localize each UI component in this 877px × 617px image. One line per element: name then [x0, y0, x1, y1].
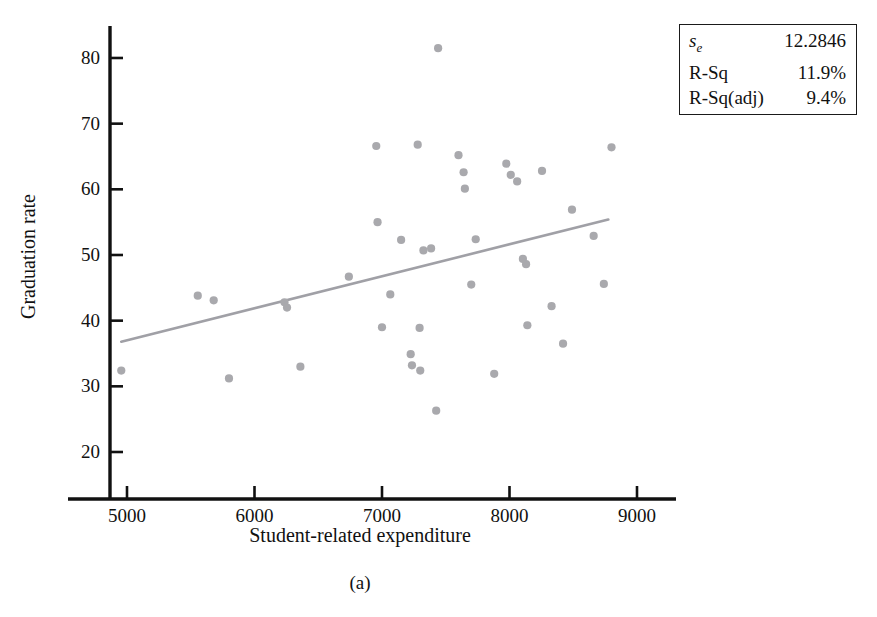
stats-value-rsq: 11.9%	[798, 60, 846, 85]
data-point	[502, 160, 510, 168]
statistics-box: se 12.2846 R-Sq 11.9% R-Sq(adj) 9.4%	[679, 24, 857, 115]
data-point	[590, 232, 598, 240]
data-point	[507, 171, 515, 179]
data-point	[461, 185, 469, 193]
y-tick-label: 40	[56, 310, 100, 332]
data-point	[397, 236, 405, 244]
data-point	[416, 366, 424, 374]
data-point	[547, 302, 555, 310]
y-tick-label: 20	[56, 441, 100, 463]
data-points	[117, 44, 615, 415]
stats-row-rsq-adj: R-Sq(adj) 9.4%	[680, 85, 856, 110]
x-axis-title: Student-related expenditure	[0, 524, 720, 547]
data-point	[607, 143, 615, 151]
data-point	[296, 363, 304, 371]
data-point	[472, 235, 480, 243]
data-point	[407, 350, 415, 358]
y-axis-title: Graduation rate	[17, 167, 40, 347]
data-point	[467, 280, 475, 288]
data-point	[434, 44, 442, 52]
data-point	[523, 321, 531, 329]
data-point	[419, 246, 427, 254]
data-point	[225, 374, 233, 382]
data-point	[373, 218, 381, 226]
data-point	[460, 168, 468, 176]
figure-caption: (a)	[0, 572, 720, 594]
data-point	[600, 280, 608, 288]
data-point	[416, 324, 424, 332]
axis-lines	[68, 26, 676, 499]
stats-label-rsq-adj: R-Sq(adj)	[689, 85, 764, 110]
y-tick-label: 30	[56, 375, 100, 397]
stats-value-rsq-adj: 9.4%	[806, 85, 846, 110]
y-tick-label: 50	[56, 244, 100, 266]
data-point	[210, 296, 218, 304]
data-point	[568, 206, 576, 214]
data-point	[408, 361, 416, 369]
x-axis-ticks	[127, 486, 637, 499]
data-point	[283, 303, 291, 311]
data-point	[490, 370, 498, 378]
scatterplot-figure: 20304050607080 50006000700080009000 Stud…	[0, 0, 877, 617]
data-point	[538, 167, 546, 175]
data-point	[522, 260, 530, 268]
data-point	[378, 323, 386, 331]
y-tick-label: 70	[56, 113, 100, 135]
data-point	[432, 407, 440, 415]
y-tick-label: 60	[56, 178, 100, 200]
data-point	[559, 340, 567, 348]
stats-row-rsq: R-Sq 11.9%	[680, 60, 856, 85]
data-point	[372, 142, 380, 150]
regression-line	[121, 220, 608, 342]
stats-value-se: 12.2846	[784, 28, 846, 53]
data-point	[386, 290, 394, 298]
y-tick-label: 80	[56, 47, 100, 69]
data-point	[427, 244, 435, 252]
data-point	[513, 177, 521, 185]
stats-row-se: se 12.2846	[680, 28, 856, 60]
stats-label-se: se	[689, 28, 702, 60]
data-point	[194, 292, 202, 300]
stats-label-rsq: R-Sq	[689, 60, 728, 85]
data-point	[345, 273, 353, 281]
data-point	[454, 151, 462, 159]
data-point	[414, 141, 422, 149]
y-axis-ticks	[110, 58, 123, 452]
data-point	[117, 366, 125, 374]
